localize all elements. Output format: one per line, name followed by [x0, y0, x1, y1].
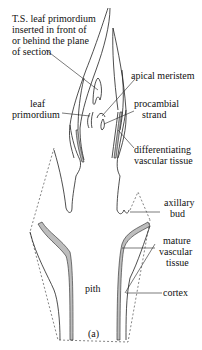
label-cortex: cortex	[163, 287, 188, 298]
procambial-strand-shape	[101, 119, 104, 130]
label-leaf-primordium: leaf primordium	[12, 98, 60, 120]
label-ts-leaf-primordium: T.S. leaf primordium inserted in front o…	[12, 13, 98, 57]
leaf-primordium-left	[88, 112, 93, 128]
outer-leaf-right	[113, 28, 126, 158]
label-mature-vascular-tissue: mature vascular tissue	[159, 235, 195, 268]
label-procambial-strand: procambial strand	[134, 98, 181, 120]
label-axillary-bud: axillary bud	[164, 197, 197, 219]
label-differentiating-vascular-tissue: differentiating vascular tissue	[134, 144, 194, 166]
figure-caption: (a)	[88, 328, 99, 340]
section-outline	[30, 148, 150, 342]
mature-vascular-left	[38, 222, 73, 340]
shoot-apex-diagram: T.S. leaf primordium inserted in front o…	[0, 0, 202, 350]
ts-leaf-primordium	[93, 78, 101, 104]
label-pith: pith	[85, 283, 101, 294]
label-apical-meristem: apical meristem	[131, 70, 195, 81]
axillary-bud	[117, 210, 129, 214]
